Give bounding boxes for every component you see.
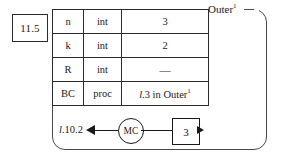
cell-value: 2 [122, 34, 209, 58]
machine-control-label: MC [123, 126, 138, 136]
frame-label: Outer1 [206, 2, 239, 15]
cell-name: k [53, 34, 84, 58]
return-point-label-rest: .10.2 [62, 124, 83, 135]
cell-type: int [84, 58, 122, 82]
table-row: k int 2 [53, 34, 209, 58]
step-number-box: 11.5 [12, 14, 48, 42]
cell-value-rest: .3 in Outer [142, 89, 187, 100]
cell-type: int [84, 34, 122, 58]
frame-label-superscript: 1 [233, 2, 237, 10]
cell-value: l.3 in Outer1 [122, 82, 209, 106]
cell-name: n [53, 10, 84, 34]
step-number-label: 11.5 [20, 22, 40, 34]
frame-label-connector-right [244, 9, 254, 10]
cell-value: — [122, 58, 209, 82]
machine-control-node: MC [118, 118, 144, 144]
table-row: n int 3 [53, 10, 209, 34]
table-row: BC proc l.3 in Outer1 [53, 82, 209, 106]
result-value-box: 3 [172, 118, 200, 145]
cell-value: 3 [122, 10, 209, 34]
control-to-value-connector [141, 130, 173, 131]
activation-record-diagram: 11.5 Outer1 n int 3 k int 2 R int — [0, 0, 283, 160]
result-value-label: 3 [183, 126, 189, 138]
cell-name: BC [53, 82, 84, 106]
table-row: R int — [53, 58, 209, 82]
return-arrow-line [94, 130, 118, 131]
return-point-label: l.10.2 [59, 124, 83, 135]
cell-type: proc [84, 82, 122, 106]
frame-label-text: Outer [208, 3, 233, 15]
right-arrowhead-icon [197, 126, 204, 134]
cell-type: int [84, 10, 122, 34]
cell-value-superscript: 1 [187, 87, 191, 95]
cell-name: R [53, 58, 84, 82]
symbol-table: n int 3 k int 2 R int — BC proc l.3 in O… [52, 9, 209, 106]
